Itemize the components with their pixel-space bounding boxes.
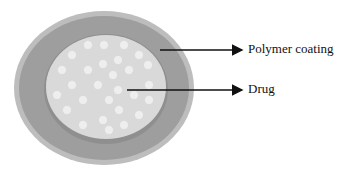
polymer-coating-label: Polymer coating: [248, 41, 334, 57]
drug-label: Drug: [248, 81, 275, 97]
particle-diagram: [0, 0, 363, 169]
